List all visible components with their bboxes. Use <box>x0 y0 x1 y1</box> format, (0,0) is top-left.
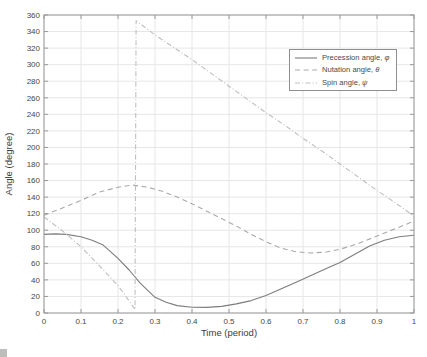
x-tick-label: 1 <box>412 317 417 326</box>
y-tick-label: 0 <box>36 309 41 318</box>
x-tick-label: 0.6 <box>260 317 272 326</box>
y-axis-label: Angle (degree) <box>3 133 14 196</box>
y-tick-label: 280 <box>27 77 41 86</box>
y-tick-label: 100 <box>27 226 41 235</box>
solid-line-sample-icon <box>294 54 318 62</box>
legend-item-precession: Precession angle, φ <box>294 52 394 64</box>
y-tick-label: 160 <box>27 176 41 185</box>
y-tick-label: 240 <box>27 110 41 119</box>
y-tick-label: 60 <box>31 259 40 268</box>
legend-item-spin: Spin angle, ψ <box>294 77 394 89</box>
x-tick-label: 0.7 <box>297 317 309 326</box>
x-axis-label: Time (period) <box>201 327 257 338</box>
x-tick-label: 0.1 <box>75 317 87 326</box>
legend-item-nutation: Nutation angle, θ <box>294 64 394 76</box>
psi-symbol: ψ <box>362 78 368 87</box>
legend-label: Spin angle, ψ <box>322 79 368 87</box>
y-tick-label: 340 <box>27 27 41 36</box>
legend-label: Precession angle, φ <box>322 54 389 62</box>
y-tick-label: 260 <box>27 94 41 103</box>
x-tick-label: 0 <box>42 317 47 326</box>
y-tick-label: 320 <box>27 44 41 53</box>
y-tick-label: 180 <box>27 160 41 169</box>
y-tick-label: 20 <box>31 292 40 301</box>
y-tick-label: 220 <box>27 127 41 136</box>
y-tick-label: 80 <box>31 243 40 252</box>
legend-label: Nutation angle, θ <box>322 66 379 74</box>
phi-symbol: φ <box>384 53 389 62</box>
x-tick-label: 0.2 <box>112 317 124 326</box>
y-tick-label: 300 <box>27 60 41 69</box>
y-tick-label: 360 <box>27 11 41 20</box>
dashed-line-sample-icon <box>294 66 318 74</box>
y-tick-label: 120 <box>27 209 41 218</box>
x-tick-label: 0.9 <box>371 317 383 326</box>
x-tick-label: 0.5 <box>223 317 235 326</box>
x-tick-label: 0.3 <box>149 317 161 326</box>
legend: Precession angle, φ Nutation angle, θ Sp… <box>289 49 397 91</box>
y-tick-label: 200 <box>27 143 41 152</box>
y-tick-label: 140 <box>27 193 41 202</box>
dashdot-line-sample-icon <box>294 79 318 87</box>
scan-artifact <box>0 349 7 357</box>
x-tick-label: 0.8 <box>334 317 346 326</box>
y-tick-label: 40 <box>31 276 40 285</box>
figure: 00.10.20.30.40.50.60.70.80.9102040608010… <box>0 0 427 357</box>
x-tick-label: 0.4 <box>186 317 198 326</box>
theta-symbol: θ <box>375 65 379 74</box>
